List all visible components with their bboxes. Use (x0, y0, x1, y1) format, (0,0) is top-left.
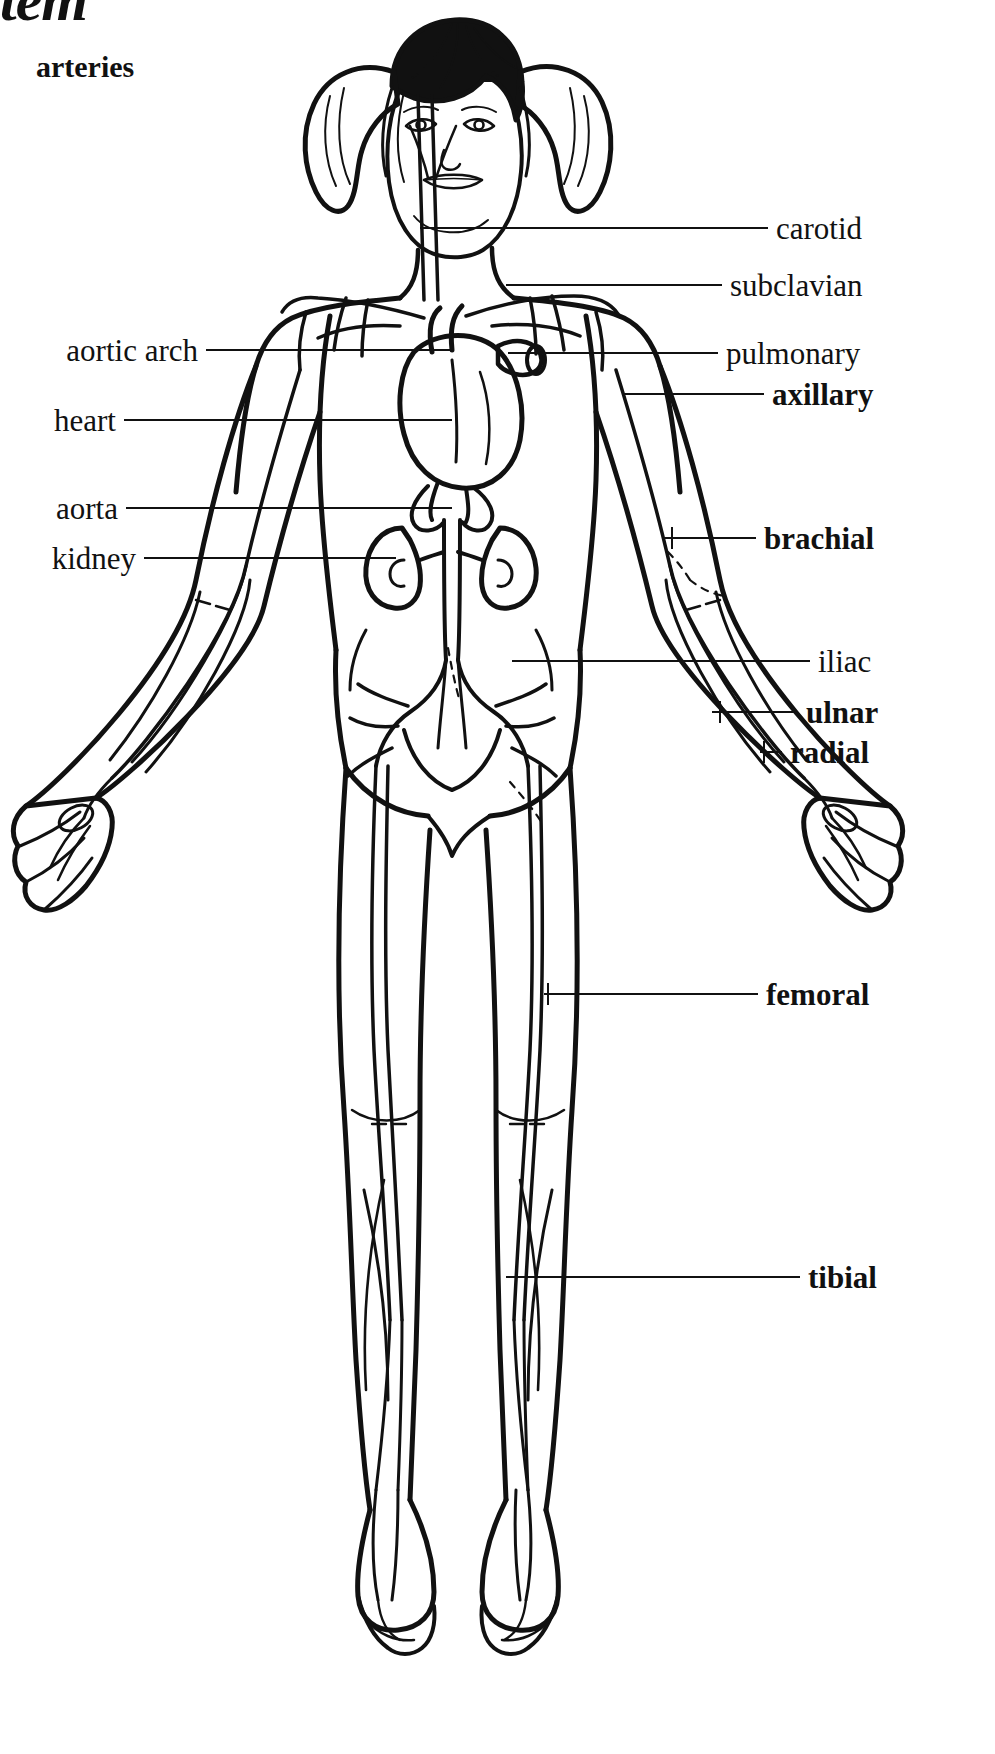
leader-tibial (506, 1276, 800, 1278)
tick-radial (763, 741, 765, 763)
arterial-system-figure (0, 0, 995, 1754)
label-brachial: brachial (764, 523, 874, 554)
label-femoral: femoral (766, 979, 869, 1010)
label-heart: heart (54, 405, 116, 436)
iliac-arteries (348, 630, 556, 790)
tick-ulnar (719, 701, 721, 723)
leader-femoral (544, 993, 758, 995)
label-iliac: iliac (818, 646, 871, 677)
diagram-canvas: ystem arteries aortic arch heart aorta k… (0, 0, 995, 1754)
label-aortic-arch: aortic arch (66, 335, 198, 366)
label-carotid: carotid (776, 213, 862, 244)
leader-heart (124, 419, 452, 421)
label-pulmonary: pulmonary (726, 338, 860, 369)
label-aorta: aorta (56, 493, 118, 524)
tick-femoral (547, 983, 549, 1005)
label-ulnar: ulnar (806, 697, 878, 728)
leader-brachial (664, 537, 756, 539)
label-radial: radial (790, 737, 869, 768)
label-subclavian: subclavian (730, 270, 863, 301)
label-axillary: axillary (772, 379, 874, 410)
label-kidney: kidney (52, 543, 136, 574)
leader-iliac (512, 660, 810, 662)
leader-pulmonary (508, 352, 718, 354)
page-subtitle: arteries (36, 50, 134, 84)
lower-limb-arteries (365, 648, 544, 1640)
leader-aortic-arch (206, 349, 452, 351)
leader-subclavian (506, 284, 722, 286)
head-group (305, 20, 611, 298)
leader-axillary (624, 393, 764, 395)
leader-carotid (420, 227, 768, 229)
label-tibial: tibial (808, 1262, 877, 1293)
leader-aorta (126, 507, 452, 509)
leader-ulnar (712, 711, 798, 713)
kidneys (366, 528, 536, 608)
page-title: ystem (0, 0, 87, 35)
leader-kidney (144, 557, 396, 559)
tick-brachial (671, 527, 673, 549)
aorta-artery (444, 520, 460, 660)
